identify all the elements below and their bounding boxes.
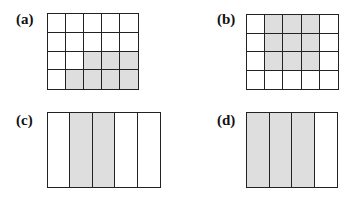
empty-cell [48,14,66,33]
shaded-cell [102,70,120,89]
panel-c-label: (c) [16,113,33,128]
empty-cell [247,71,265,90]
shaded-cell [283,34,301,53]
empty-cell [66,14,84,33]
empty-cell [320,71,338,90]
empty-cell [320,34,338,53]
empty-cell [48,33,66,52]
shaded-cell [302,52,320,71]
empty-cell [48,70,66,89]
empty-cell [283,71,301,90]
empty-cell [115,113,137,187]
panel-d-label: (d) [217,113,235,128]
shaded-cell [270,113,293,187]
empty-cell [102,33,120,52]
panel-d-grid [246,112,338,188]
shaded-cell [84,70,102,89]
empty-cell [320,15,338,34]
empty-cell [265,71,283,90]
panel-a-label: (a) [16,12,34,27]
panel-c-grid [47,112,161,188]
panel-b-label: (b) [217,12,235,27]
shaded-cell [292,113,315,187]
shaded-cell [66,70,84,89]
shaded-cell [120,52,138,71]
empty-cell [66,52,84,71]
empty-cell [66,33,84,52]
shaded-cell [283,15,301,34]
empty-cell [84,14,102,33]
shaded-cell [302,34,320,53]
empty-cell [315,113,338,187]
shaded-cell [302,15,320,34]
shaded-cell [70,113,92,187]
empty-cell [84,33,102,52]
shaded-cell [102,52,120,71]
shaded-cell [84,52,102,71]
empty-cell [48,113,70,187]
panel-b-grid [246,14,339,90]
empty-cell [247,15,265,34]
shaded-cell [120,70,138,89]
shaded-cell [247,113,270,187]
empty-cell [138,113,160,187]
panel-a-grid [47,13,139,90]
shaded-cell [93,113,115,187]
empty-cell [120,33,138,52]
empty-cell [102,14,120,33]
shaded-cell [265,15,283,34]
empty-cell [247,34,265,53]
shaded-cell [265,34,283,53]
empty-cell [302,71,320,90]
empty-cell [247,52,265,71]
empty-cell [320,52,338,71]
shaded-cell [283,52,301,71]
empty-cell [48,52,66,71]
empty-cell [120,14,138,33]
shaded-cell [265,52,283,71]
